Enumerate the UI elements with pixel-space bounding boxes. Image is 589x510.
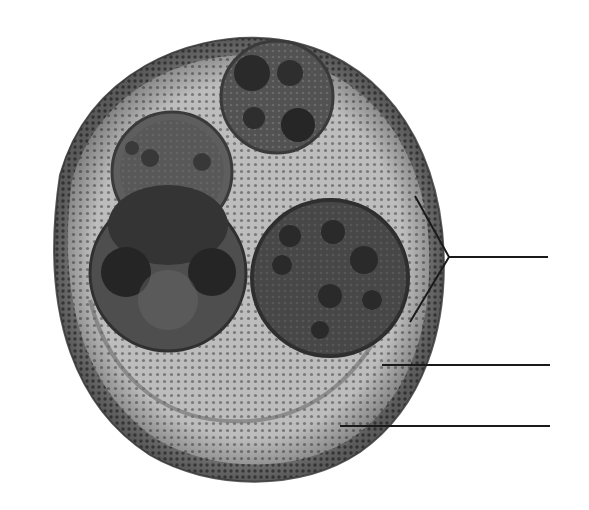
nucleus-spot (350, 246, 378, 274)
nucleus-spot (362, 290, 382, 310)
nucleus-spot (281, 108, 315, 142)
nucleus-spot (279, 225, 301, 247)
nucleus-spot (277, 60, 303, 86)
diagram-canvas (0, 0, 589, 510)
nucleus-spot (311, 321, 329, 339)
nucleus-spot (243, 107, 265, 129)
nucleus-spot (141, 149, 159, 167)
nucleus-spot (234, 55, 270, 91)
right-body (252, 200, 408, 356)
top-body (221, 41, 333, 153)
nucleus-spot (272, 255, 292, 275)
nucleus-spot (321, 220, 345, 244)
nucleus-spot (318, 284, 342, 308)
nucleus-spot (125, 141, 139, 155)
nucleus-spot (193, 153, 211, 171)
lower-left-body (90, 185, 246, 351)
